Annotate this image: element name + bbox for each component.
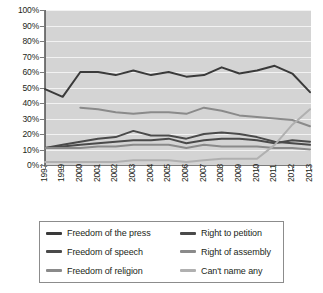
y-tick-label: 90%	[23, 21, 39, 31]
y-tick-mark	[40, 57, 44, 58]
series-line	[45, 109, 310, 162]
y-tick-label: 0%	[27, 160, 39, 170]
legend-label: Freedom of religion	[67, 266, 143, 276]
x-tick-mark	[45, 166, 46, 170]
x-tick-mark	[239, 166, 240, 170]
x-tick-label: 2004	[145, 164, 155, 182]
legend-label: Right of assembly	[201, 247, 271, 257]
legend-item[interactable]: Right of assembly	[180, 247, 291, 257]
series-layer	[45, 10, 310, 165]
x-tick-mark	[222, 166, 223, 170]
y-tick-mark	[40, 150, 44, 151]
y-tick-label: 100%	[18, 5, 39, 15]
x-tick-label: 2005	[162, 164, 172, 182]
legend-label: Freedom of speech	[67, 247, 143, 257]
series-line	[80, 108, 310, 127]
line-chart: 0%10%20%30%40%50%60%70%80%90%100% 199719…	[0, 0, 323, 293]
legend-swatch-icon	[180, 269, 196, 272]
x-tick-mark	[292, 166, 293, 170]
legend-label: Freedom of the press	[67, 228, 151, 238]
legend-swatch-icon	[180, 250, 196, 253]
x-tick-mark	[204, 166, 205, 170]
y-tick-mark	[40, 88, 44, 89]
x-tick-mark	[275, 166, 276, 170]
x-tick-label: 2003	[127, 164, 137, 182]
legend-swatch-icon	[180, 232, 196, 235]
x-tick-mark	[133, 166, 134, 170]
legend-swatch-icon	[46, 232, 62, 235]
x-tick-label: 1997	[39, 164, 49, 182]
legend-swatch-icon	[46, 269, 62, 272]
y-tick-label: 30%	[23, 114, 39, 124]
legend-label: Can't name any	[201, 266, 262, 276]
y-tick-mark	[40, 26, 44, 27]
y-tick-mark	[40, 10, 44, 11]
x-tick-mark	[63, 166, 64, 170]
x-tick-label: 2013	[304, 164, 314, 182]
y-tick-label: 60%	[23, 67, 39, 77]
y-tick-label: 40%	[23, 98, 39, 108]
legend-swatch-icon	[46, 250, 62, 253]
legend-item[interactable]: Right to petition	[180, 228, 291, 238]
plot-region: 0%10%20%30%40%50%60%70%80%90%100% 199719…	[0, 0, 323, 215]
x-tick-label: 2007	[198, 164, 208, 182]
y-tick-label: 80%	[23, 36, 39, 46]
y-tick-mark	[40, 134, 44, 135]
x-tick-mark	[310, 166, 311, 170]
legend-item[interactable]: Can't name any	[180, 266, 291, 276]
x-tick-label: 2001	[92, 164, 102, 182]
legend: Freedom of the pressRight to petitionFre…	[39, 221, 284, 283]
legend-item[interactable]: Freedom of speech	[46, 247, 180, 257]
x-tick-label: 2008	[215, 164, 225, 182]
x-tick-mark	[186, 166, 187, 170]
y-tick-mark	[40, 72, 44, 73]
x-tick-label: 2009	[233, 164, 243, 182]
x-axis: 1997199920002001200220032004200520062007…	[0, 172, 323, 214]
series-line	[45, 66, 310, 97]
x-tick-mark	[151, 166, 152, 170]
x-tick-mark	[98, 166, 99, 170]
legend-item[interactable]: Freedom of the press	[46, 228, 180, 238]
y-tick-label: 50%	[23, 83, 39, 93]
x-tick-mark	[80, 166, 81, 170]
y-tick-mark	[40, 41, 44, 42]
y-tick-label: 20%	[23, 129, 39, 139]
x-tick-mark	[116, 166, 117, 170]
y-tick-label: 70%	[23, 52, 39, 62]
y-tick-mark	[40, 119, 44, 120]
x-tick-label: 1999	[56, 164, 66, 182]
x-tick-label: 2006	[180, 164, 190, 182]
x-tick-label: 2002	[109, 164, 119, 182]
y-tick-mark	[40, 103, 44, 104]
legend-grid: Freedom of the pressRight to petitionFre…	[40, 222, 283, 282]
legend-label: Right to petition	[201, 228, 262, 238]
x-tick-label: 2010	[251, 164, 261, 182]
x-tick-mark	[257, 166, 258, 170]
y-axis: 0%10%20%30%40%50%60%70%80%90%100%	[0, 0, 42, 170]
x-tick-label: 2012	[286, 164, 296, 182]
x-tick-mark	[169, 166, 170, 170]
x-tick-label: 2011	[268, 165, 278, 182]
y-tick-mark	[40, 165, 44, 166]
legend-item[interactable]: Freedom of religion	[46, 266, 180, 276]
y-tick-label: 10%	[23, 145, 39, 155]
x-tick-label: 2000	[74, 164, 84, 182]
